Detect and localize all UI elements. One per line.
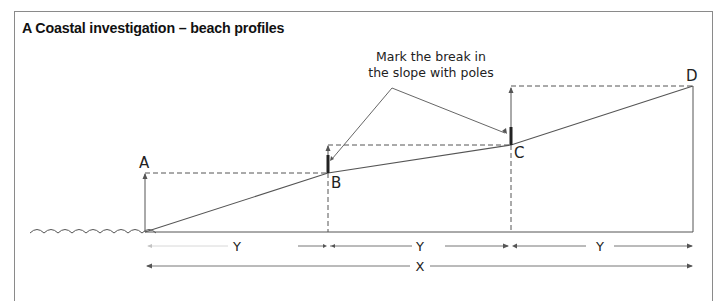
distance-label-y3: Y — [595, 239, 604, 254]
annotation-line-1: Mark the break in — [376, 49, 486, 64]
distance-label-x: X — [416, 259, 425, 274]
annotation-line-2: the slope with poles — [368, 65, 493, 80]
point-label-c: C — [514, 144, 524, 162]
distance-label-y2: Y — [415, 239, 424, 254]
point-label-a: A — [139, 154, 150, 172]
distance-label-y1: Y — [232, 239, 241, 254]
sea-waves-icon — [30, 230, 156, 234]
annotation-leader — [332, 88, 505, 159]
point-label-d: D — [686, 67, 698, 85]
beach-profile-line — [145, 86, 693, 232]
point-label-b: B — [331, 174, 341, 192]
